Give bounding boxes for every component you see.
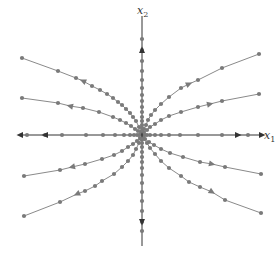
trajectory-curve <box>144 94 259 133</box>
trajectory-point <box>20 96 24 100</box>
trajectory-point <box>74 76 78 80</box>
trajectory-point <box>120 103 124 107</box>
trajectory-point <box>101 133 105 137</box>
trajectory-point <box>131 142 135 146</box>
trajectory-point <box>144 123 148 127</box>
trajectory-point <box>137 133 141 137</box>
trajectory-point <box>90 84 94 88</box>
trajectory-point <box>167 166 171 170</box>
direction-arrow-icon <box>206 100 214 107</box>
direction-arrow-icon <box>208 160 216 167</box>
phase-portrait-diagram: x1 x2 <box>0 0 280 254</box>
trajectory-curve <box>22 58 141 132</box>
trajectory-point <box>112 153 116 157</box>
trajectory-point <box>97 110 101 114</box>
trajectory-point <box>83 189 87 193</box>
trajectory-point <box>140 86 144 90</box>
trajectory-point <box>124 121 128 125</box>
trajectory-point <box>131 153 135 157</box>
x2-axis-label: x2 <box>137 4 148 19</box>
trajectory-point <box>148 125 152 129</box>
trajectory-point <box>187 180 191 184</box>
trajectory-point <box>159 102 163 106</box>
trajectory-point <box>56 69 60 73</box>
phase-portrait-canvas: x1 x2 <box>0 0 280 254</box>
trajectory-point <box>25 133 29 137</box>
trajectory-point <box>120 149 124 153</box>
trajectory-point <box>140 209 144 213</box>
trajectory-point <box>136 129 140 133</box>
trajectory-point <box>81 106 85 110</box>
trajectory-point <box>167 133 171 137</box>
direction-arrow-icon <box>42 132 49 138</box>
trajectory-point <box>118 118 122 122</box>
trajectory-point <box>145 141 149 145</box>
trajectory-point <box>20 56 24 60</box>
trajectory-point <box>153 122 157 126</box>
trajectory-point <box>149 113 153 117</box>
trajectory-point <box>129 124 133 128</box>
trajectory-point <box>220 66 224 70</box>
trajectory-point <box>84 133 88 137</box>
trajectory-point <box>179 86 183 90</box>
trajectory-point <box>111 96 115 100</box>
direction-arrow-icon <box>79 77 87 85</box>
x1-axis-label: x1 <box>264 129 275 144</box>
trajectory-point <box>140 229 144 233</box>
trajectory-point <box>223 198 227 202</box>
trajectory-point <box>257 52 261 56</box>
trajectory-point <box>120 165 124 169</box>
direction-arrow-icon <box>68 163 76 170</box>
trajectory-point <box>122 133 126 137</box>
direction-arrow-icon <box>185 80 193 88</box>
trajectory-point <box>22 214 26 218</box>
trajectory-point <box>181 155 185 159</box>
trajectory-point <box>198 160 202 164</box>
trajectory-lower-right-inner <box>141 135 263 176</box>
trajectory-point <box>167 114 171 118</box>
trajectory-point <box>259 172 263 176</box>
trajectory-point <box>116 100 120 104</box>
trajectory-point <box>140 166 144 170</box>
direction-arrow-icon <box>208 188 217 197</box>
trajectory-upper-left-inner <box>20 96 143 136</box>
trajectory-point <box>22 174 26 178</box>
trajectory-point <box>140 145 144 149</box>
trajectory-point <box>146 118 150 122</box>
trajectory-point <box>58 168 62 172</box>
trajectory-point <box>159 147 163 151</box>
trajectory-point <box>60 133 64 137</box>
trajectory-point <box>159 159 163 163</box>
trajectory-point <box>56 101 60 105</box>
trajectory-point <box>124 107 128 111</box>
trajectory-point <box>140 119 144 123</box>
trajectory-point <box>100 157 104 161</box>
trajectory-point <box>259 211 263 215</box>
trajectory-point <box>100 179 104 183</box>
trajectory-point <box>140 160 144 164</box>
trajectory-point <box>98 88 102 92</box>
trajectory-point <box>223 165 227 169</box>
trajectory-point <box>112 172 116 176</box>
trajectory-point <box>113 133 117 137</box>
trajectory-point <box>198 185 202 189</box>
trajectory-point <box>140 190 144 194</box>
trajectory-point <box>153 152 157 156</box>
trajectory-point <box>140 129 144 133</box>
trajectory-point <box>140 93 144 97</box>
trajectory-point <box>140 115 144 119</box>
trajectory-point <box>179 174 183 178</box>
trajectory-point <box>220 99 224 103</box>
direction-arrow-icon <box>139 219 145 226</box>
trajectory-point <box>140 99 144 103</box>
direction-arrow-icon <box>66 102 74 109</box>
direction-arrow-icon <box>139 47 145 54</box>
trajectory-point <box>93 184 97 188</box>
trajectory-point <box>126 145 130 149</box>
trajectory-point <box>220 133 224 137</box>
trajectory-point <box>140 37 144 41</box>
trajectory-point <box>148 146 152 150</box>
trajectory-point <box>196 78 200 82</box>
trajectory-point <box>178 133 182 137</box>
trajectory-point <box>140 155 144 159</box>
